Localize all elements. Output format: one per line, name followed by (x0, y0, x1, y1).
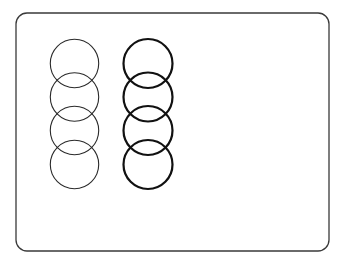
thick-circle-column (124, 39, 173, 189)
thin-circle-4 (50, 140, 98, 188)
thin-circle-column (50, 39, 98, 188)
thick-circle-4 (124, 140, 173, 189)
diagram-canvas (0, 0, 346, 266)
